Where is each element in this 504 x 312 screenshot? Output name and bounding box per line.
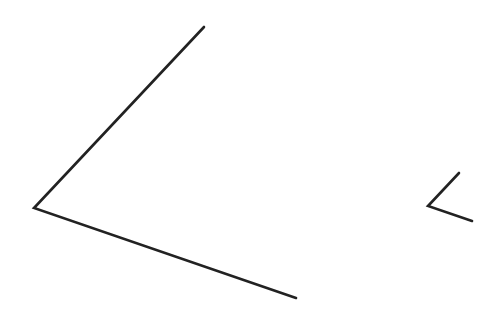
angle-diagram	[0, 0, 504, 312]
large-angle	[34, 27, 296, 298]
small-angle	[428, 173, 472, 221]
